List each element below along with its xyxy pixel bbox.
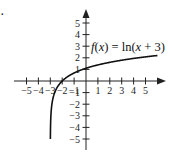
y-tick-label: 2 bbox=[75, 52, 80, 63]
y-tick-label: −3 bbox=[69, 110, 80, 121]
y-tick-label: −5 bbox=[69, 134, 80, 145]
function-graph: . −5−4−3−2−112345 54321−1−2−3−4−5 f(x) =… bbox=[0, 0, 172, 162]
x-axis-arrow-icon bbox=[157, 78, 166, 85]
x-tick-label: −5 bbox=[21, 85, 32, 96]
function-label: f(x) = ln(x + 3) bbox=[91, 40, 165, 54]
y-tick-label: 5 bbox=[75, 18, 80, 29]
function-curve bbox=[50, 56, 157, 140]
corner-mark: . bbox=[1, 6, 4, 17]
y-axis-arrow-icon bbox=[83, 9, 90, 18]
y-tick-label: −4 bbox=[69, 122, 80, 133]
y-axis bbox=[83, 9, 90, 150]
y-tick-label: −1 bbox=[69, 87, 80, 98]
y-tick-label: 4 bbox=[75, 29, 80, 40]
x-tick-label: 4 bbox=[131, 85, 136, 96]
x-axis bbox=[14, 78, 166, 85]
x-tick-label: −4 bbox=[33, 85, 44, 96]
x-tick-label: 1 bbox=[95, 85, 100, 96]
y-tick-label: 3 bbox=[75, 41, 80, 52]
y-tick-label: −2 bbox=[69, 99, 80, 110]
x-tick-label: 3 bbox=[119, 85, 124, 96]
x-tick-label: 2 bbox=[107, 85, 112, 96]
y-tick-label: 1 bbox=[75, 64, 80, 75]
x-ticks: −5−4−3−2−112345 bbox=[21, 78, 148, 97]
x-tick-label: 5 bbox=[143, 85, 148, 96]
